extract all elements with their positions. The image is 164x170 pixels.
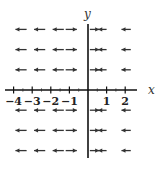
direction-arrow-left xyxy=(53,108,64,112)
direction-arrow-left xyxy=(15,68,26,72)
x-tick-label: −1 xyxy=(61,95,78,108)
direction-arrow-left xyxy=(98,47,106,51)
direction-arrow-left xyxy=(53,68,64,72)
direction-arrow-right xyxy=(66,27,77,31)
direction-arrow-right xyxy=(66,68,77,72)
x-tick-label: −2 xyxy=(42,95,59,108)
direction-arrow-left xyxy=(15,128,26,132)
direction-arrow-right xyxy=(66,47,77,51)
x-tick-label: 1 xyxy=(103,95,111,108)
direction-arrow-right xyxy=(90,148,99,152)
direction-arrow-left xyxy=(121,128,130,132)
direction-arrow-left xyxy=(98,148,106,152)
direction-arrow-left xyxy=(53,47,64,51)
direction-arrow-left xyxy=(34,108,45,112)
direction-arrow-left xyxy=(34,148,45,152)
direction-arrow-left xyxy=(121,27,130,31)
direction-arrow-left xyxy=(98,68,106,72)
direction-arrow-left xyxy=(34,27,45,31)
direction-arrow-right xyxy=(90,128,99,132)
direction-arrow-left xyxy=(121,47,130,51)
direction-arrow-left xyxy=(34,68,45,72)
direction-arrow-left xyxy=(53,148,64,152)
direction-arrow-left xyxy=(121,68,130,72)
direction-arrow-left xyxy=(121,148,130,152)
direction-arrow-left xyxy=(34,47,45,51)
direction-arrow-right xyxy=(90,47,99,51)
direction-arrow-right xyxy=(66,108,77,112)
x-tick-label: 2 xyxy=(121,95,129,108)
direction-arrow-left xyxy=(34,128,45,132)
direction-arrow-right xyxy=(90,27,99,31)
direction-arrow-right xyxy=(90,108,99,112)
direction-arrow-left xyxy=(15,148,26,152)
x-axis-label: x xyxy=(148,83,155,97)
direction-arrow-right xyxy=(90,68,99,72)
direction-field-diagram: −4−3−2−112 x y xyxy=(0,0,164,170)
direction-arrow-left xyxy=(15,27,26,31)
direction-arrow-left xyxy=(53,128,64,132)
direction-arrow-left xyxy=(98,108,106,112)
direction-arrow-left xyxy=(15,47,26,51)
direction-arrow-left xyxy=(53,27,64,31)
x-tick-label: −3 xyxy=(24,95,41,108)
y-axis-label: y xyxy=(83,7,91,21)
direction-arrow-right xyxy=(66,148,77,152)
direction-arrow-left xyxy=(98,27,106,31)
x-tick-label: −4 xyxy=(5,95,22,108)
direction-arrow-left xyxy=(121,108,130,112)
direction-arrow-right xyxy=(66,128,77,132)
direction-arrow-left xyxy=(98,128,106,132)
direction-arrow-left xyxy=(15,108,26,112)
